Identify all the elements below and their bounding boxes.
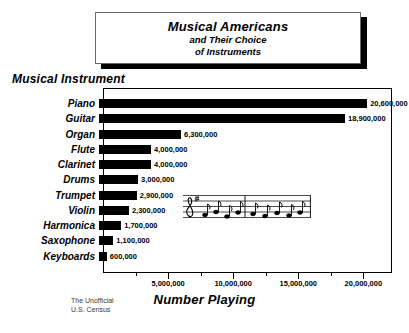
bar-track: 600,000 [99,249,409,264]
source-note-line2: U.S. Census [71,305,114,314]
bar [99,206,129,215]
chart-title-box: Musical Americans and Their Choice of In… [95,12,361,64]
x-axis-minor-tick [136,273,137,276]
source-note-line1: The Unofficial [71,296,114,305]
bar-track: 4,000,000 [99,157,409,172]
bar-category-label: Keyboards [0,251,99,262]
bar-row: Keyboards600,000 [0,249,409,264]
bar-value-label: 18,900,000 [348,114,386,123]
bar-value-label: 3,000,000 [141,175,174,184]
bar-row: Guitar18,900,000 [0,111,409,126]
bar-category-label: Flute [0,144,99,155]
bar [99,145,151,154]
bar-value-label: 1,700,000 [124,221,157,230]
bar-category-label: Drums [0,174,99,185]
x-axis-tick-label: 20,000,000 [345,279,383,288]
bar [99,99,367,108]
chart-title-main: Musical Americans [168,19,289,34]
bar [99,160,151,169]
bar-row: Drums3,000,000 [0,172,409,187]
x-axis-tick-label: 10,000,000 [214,279,252,288]
bar-category-label: Guitar [0,113,99,124]
bar [99,252,107,261]
y-axis-title: Musical Instrument [12,72,125,86]
bar-track: 6,300,000 [99,127,409,142]
bar-row: Organ6,300,000 [0,127,409,142]
bar-track: 20,600,000 [99,96,409,111]
x-axis-minor-tick [266,273,267,276]
x-axis-tick-labels: 5,000,00010,000,00015,000,00020,000,000 [103,279,392,291]
bar-category-label: Violin [0,205,99,216]
bar-value-label: 4,000,000 [154,160,187,169]
bar [99,130,181,139]
bar-value-label: 1,100,000 [116,236,149,245]
bar-row: Saxophone1,100,000 [0,233,409,248]
bar-track: 18,900,000 [99,111,409,126]
bar [99,191,137,200]
bar-value-label: 600,000 [110,252,137,261]
bar-value-label: 2,300,000 [132,206,165,215]
bar-row: Clarinet4,000,000 [0,157,409,172]
bar-category-label: Organ [0,129,99,140]
x-axis-tick-label: 5,000,000 [151,279,184,288]
x-axis-minor-tick [201,273,202,276]
bar-value-label: 4,000,000 [154,145,187,154]
chart-title-sub2: of Instruments [195,46,261,58]
bar [99,221,121,230]
bar [99,114,345,123]
bar [99,236,113,245]
bar-category-label: Clarinet [0,159,99,170]
x-axis-minor-tick [331,273,332,276]
source-note: The Unofficial U.S. Census [71,296,114,314]
bar [99,175,138,184]
x-axis-tick-label: 15,000,000 [279,279,317,288]
bar-category-label: Piano [0,98,99,109]
bar-value-label: 20,600,000 [370,99,408,108]
x-axis-title: Number Playing [0,292,409,307]
bar-value-label: 6,300,000 [184,130,217,139]
bar-category-label: Saxophone [0,235,99,246]
bar-track: 1,100,000 [99,233,409,248]
bar-track: 3,000,000 [99,172,409,187]
bar-row: Flute4,000,000 [0,142,409,157]
bar-category-label: Trumpet [0,190,99,201]
bar-row: Piano20,600,000 [0,96,409,111]
chart-title-sub1: and Their Choice [189,34,266,46]
bar-value-label: 2,900,000 [140,191,173,200]
bar-category-label: Harmonica [0,220,99,231]
bar-track: 4,000,000 [99,142,409,157]
music-staff-icon [183,193,311,223]
